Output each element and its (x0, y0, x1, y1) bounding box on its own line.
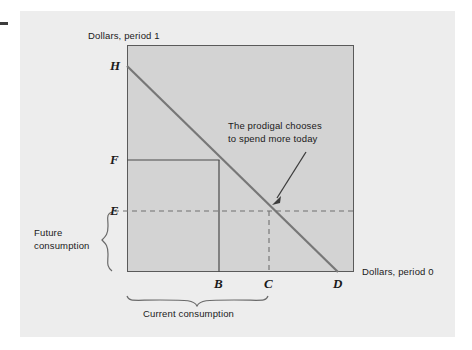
diagram-lines-layer (0, 0, 472, 350)
figure-container: Dollars, period 1 Dollars, period 0 H F … (0, 0, 472, 350)
prodigal-annotation-line1: The prodigal chooses (228, 120, 322, 133)
point-label-h: H (110, 58, 120, 74)
point-label-d: D (333, 276, 342, 292)
point-label-c: C (264, 276, 273, 292)
current-consumption-label: Current consumption (143, 308, 234, 321)
prodigal-annotation-line2: to spend more today (228, 133, 322, 146)
future-consumption-label-line1: Future (34, 227, 90, 240)
prodigal-annotation: The prodigal chooses to spend more today (228, 120, 322, 145)
x-axis-label: Dollars, period 0 (362, 266, 434, 277)
future-consumption-label: Future consumption (34, 227, 90, 252)
budget-constraint-line (127, 66, 338, 272)
annotation-arrow-head (272, 196, 281, 205)
current-consumption-brace (127, 296, 268, 306)
point-label-e: E (110, 203, 119, 219)
y-axis-label: Dollars, period 1 (88, 30, 160, 41)
annotation-arrow-shaft (277, 152, 306, 198)
point-label-f: F (110, 152, 119, 168)
future-consumption-label-line2: consumption (34, 240, 90, 253)
future-consumption-brace (102, 212, 112, 271)
point-label-b: B (214, 276, 223, 292)
